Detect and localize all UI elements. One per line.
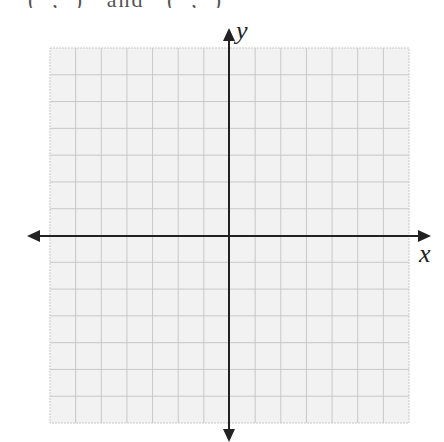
- coordinate-plane: [0, 0, 444, 442]
- y-axis-label: y: [236, 18, 248, 44]
- x-axis-left-arrow-icon: [27, 230, 40, 242]
- y-axis-up-arrow-icon: [223, 28, 235, 41]
- x-axis-label: x: [419, 241, 431, 267]
- y-axis-down-arrow-icon: [223, 429, 235, 442]
